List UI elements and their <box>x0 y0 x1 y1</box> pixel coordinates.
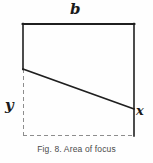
label-b-top-width: b <box>70 2 81 17</box>
figure-caption: Fig. 8. Area of focus <box>0 144 153 154</box>
label-y-left-height: y <box>5 98 14 113</box>
diagonal-chord-line <box>23 69 134 109</box>
figure-container: b y x Fig. 8. Area of focus <box>0 0 153 163</box>
label-x-right-height: x <box>136 104 144 117</box>
figure-diagram-svg <box>0 0 153 163</box>
